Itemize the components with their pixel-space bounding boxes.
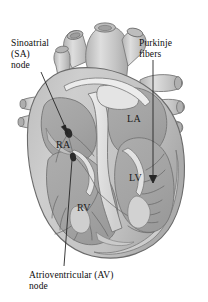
vessel-left-margin-upper-opening: [20, 100, 26, 109]
chamber-label-right-atrium: RA: [56, 139, 71, 150]
chamber-label-left-ventricle: LV: [129, 172, 142, 183]
vessel-pv-upper-opening: [174, 77, 181, 90]
chamber-label-right-ventricle: RV: [77, 202, 91, 213]
callout-purkinje-fibers: Purkinje fibers: [139, 38, 172, 60]
callout-av-node: Atrioventricular (AV) node: [29, 270, 114, 292]
callout-sa-node: Sinoatrial (SA) node: [11, 38, 49, 71]
vessel-pv-mid-opening: [177, 101, 184, 113]
vessel-aorta-lumen: [98, 25, 111, 30]
heart-conduction-figure: Sinoatrial (SA) node Purkinje fibers Atr…: [0, 0, 208, 302]
vessel-left-margin-lower-opening: [18, 118, 24, 127]
chamber-label-left-atrium: LA: [127, 113, 141, 124]
